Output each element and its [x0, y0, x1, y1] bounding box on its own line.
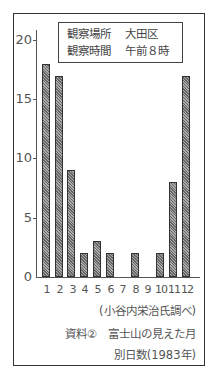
- bar-month-11: [169, 182, 177, 277]
- x-axis: [36, 277, 200, 278]
- x-label: 4: [78, 283, 92, 296]
- time-value: 午前８時: [125, 44, 169, 58]
- chart-title-line1: 資料② 富士山の見えた月: [65, 325, 196, 341]
- y-tick: [33, 99, 37, 100]
- bar-month-5: [93, 241, 101, 277]
- bar-month-1: [42, 64, 50, 277]
- bar-month-10: [156, 253, 164, 277]
- bar-month-8: [131, 253, 139, 277]
- x-label: 9: [141, 283, 155, 296]
- y-tick: [33, 158, 37, 159]
- y-label-10: 10: [15, 151, 32, 165]
- x-label: 11: [167, 283, 181, 296]
- bar-month-6: [106, 253, 114, 277]
- x-label: 2: [53, 283, 67, 296]
- bar-month-3: [67, 170, 75, 277]
- bar-month-2: [55, 76, 63, 277]
- x-label: 10: [154, 283, 168, 296]
- source-note: (小谷内栄治氏調べ): [99, 302, 196, 318]
- location-value: 大田区: [125, 27, 158, 41]
- location-label: 観察場所: [67, 26, 125, 43]
- time-label: 観察時間: [67, 43, 125, 60]
- x-label: 7: [116, 283, 130, 296]
- bar-month-4: [80, 253, 88, 277]
- x-label: 5: [91, 283, 105, 296]
- chart-title-line2: 別日数(1983年): [114, 346, 196, 362]
- bar-month-12: [182, 76, 190, 277]
- x-label: 1: [40, 283, 54, 296]
- y-label-20: 20: [15, 33, 32, 47]
- y-axis: [36, 30, 37, 277]
- y-tick: [33, 40, 37, 41]
- y-tick: [33, 218, 37, 219]
- y-label-0: 0: [24, 270, 32, 284]
- y-label-5: 5: [24, 211, 32, 225]
- x-label: 12: [180, 283, 194, 296]
- observation-info-box: 観察場所大田区 観察時間午前８時: [58, 22, 183, 63]
- y-label-15: 15: [15, 92, 32, 106]
